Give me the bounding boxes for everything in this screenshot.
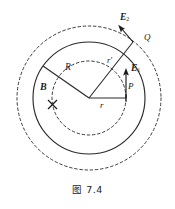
label-point-q: Q <box>144 33 151 42</box>
label-radius-r-prime: r′ <box>107 56 112 65</box>
label-point-p: P <box>128 82 134 91</box>
label-field-inner: E1 <box>131 64 140 74</box>
label-field-outer-subscript: 2 <box>126 16 129 22</box>
figure-container: E2 Q E1 P R r′ r B 图 7.4 <box>0 0 175 209</box>
figure-caption: 图 7.4 <box>0 182 175 196</box>
b-into-page-cross-icon <box>48 100 57 109</box>
label-magnetic-field-B: B <box>40 82 47 92</box>
vector-E2-shaft <box>122 29 134 43</box>
label-radius-r: r <box>100 101 104 110</box>
label-field-outer: E2 <box>120 13 129 23</box>
label-radius-R: R <box>65 63 71 73</box>
label-field-inner-subscript: 1 <box>137 67 140 73</box>
